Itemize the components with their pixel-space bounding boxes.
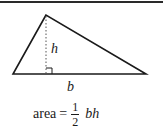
area-formula: area = 1 2 bh: [33, 101, 99, 127]
formula-equals: =: [59, 106, 67, 122]
fraction-denominator: 2: [72, 115, 78, 128]
formula-lhs: area: [33, 106, 56, 122]
triangle-shape: [13, 15, 146, 74]
right-angle-marker: [46, 68, 52, 74]
formula-rhs-vars: bh: [85, 106, 99, 122]
fraction-numerator: 1: [71, 101, 79, 115]
formula-fraction: 1 2: [71, 101, 79, 128]
height-label: h: [51, 42, 58, 56]
base-label: b: [67, 80, 74, 94]
